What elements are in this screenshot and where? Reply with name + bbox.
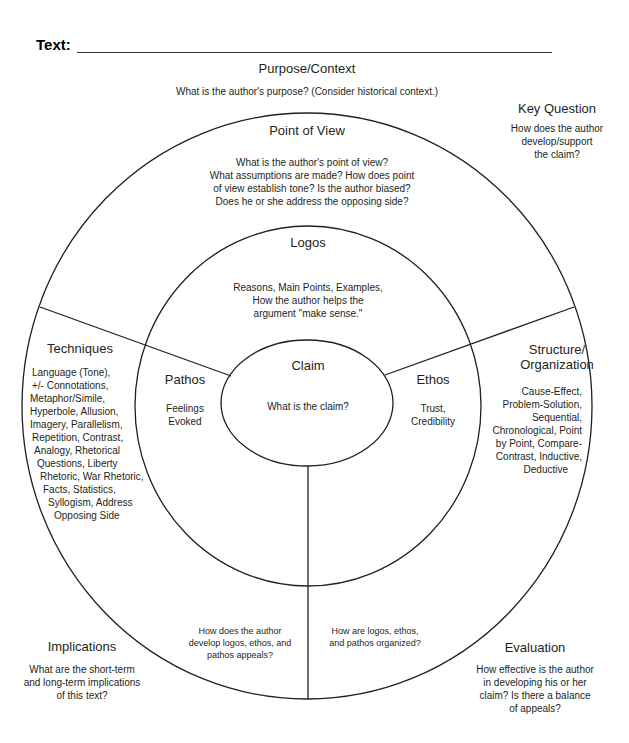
logos-heading: Logos [258, 235, 358, 250]
techniques-heading: Techniques [30, 341, 130, 356]
text-title-row: Text: [36, 36, 552, 53]
claim-heading: Claim [258, 358, 358, 373]
bottom-left-prompt: How does the author develop logos, ethos… [180, 625, 300, 661]
ethos-text: Trust, Credibility [393, 402, 473, 428]
purpose-context-heading: Purpose/Context [157, 61, 457, 76]
pathos-text: Feelings Evoked [150, 402, 220, 428]
evaluation-heading: Evaluation [460, 640, 610, 655]
text-label: Text: [36, 36, 71, 53]
pathos-heading: Pathos [150, 372, 220, 387]
bottom-right-prompt: How are logos, ethos, and pathos organiz… [315, 625, 435, 649]
key-question-heading: Key Question [497, 101, 617, 116]
text-input-line[interactable] [77, 38, 552, 53]
key-question-text: How does the author develop/support the … [497, 122, 617, 161]
structure-text: Cause-Effect, Problem-Solution, Sequenti… [482, 385, 582, 476]
point-of-view-heading: Point of View [207, 123, 407, 138]
implications-heading: Implications [12, 639, 152, 654]
structure-heading: Structure/ Organization [497, 342, 617, 372]
logos-text: Reasons, Main Points, Examples, How the … [208, 281, 408, 320]
techniques-text: Language (Tone), +/- Connotations, Metap… [26, 366, 146, 522]
point-of-view-text: What is the author's point of view? What… [187, 156, 437, 208]
evaluation-text: How effective is the author in developin… [460, 663, 610, 715]
implications-text: What are the short-term and long-term im… [12, 663, 152, 702]
purpose-context-prompt: What is the author's purpose? (Consider … [107, 85, 507, 98]
ethos-heading: Ethos [398, 372, 468, 387]
claim-prompt: What is the claim? [238, 400, 378, 413]
